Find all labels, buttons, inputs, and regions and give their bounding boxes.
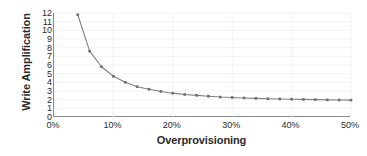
data-point bbox=[231, 96, 234, 99]
x-tick-label: 0% bbox=[46, 119, 59, 131]
plot-area bbox=[53, 13, 350, 117]
gridlines bbox=[54, 13, 351, 117]
data-point bbox=[136, 85, 139, 88]
y-tick-label: 2 bbox=[36, 95, 52, 104]
plot-svg bbox=[54, 13, 351, 117]
y-tick-label: 12 bbox=[36, 9, 52, 18]
data-point bbox=[207, 95, 210, 98]
data-point bbox=[350, 99, 353, 102]
x-tick-label: 30% bbox=[222, 119, 240, 131]
series-line-write-amplification bbox=[78, 15, 351, 100]
x-axis-title: Overprovisioning bbox=[53, 134, 350, 146]
data-point bbox=[195, 94, 198, 97]
data-point bbox=[326, 99, 329, 102]
y-axis-title: Write Amplification bbox=[16, 0, 36, 124]
series-markers bbox=[76, 13, 352, 101]
data-point bbox=[278, 98, 281, 101]
x-tick-label: 40% bbox=[282, 119, 300, 131]
data-point bbox=[148, 88, 151, 91]
y-tick-label: 5 bbox=[36, 69, 52, 78]
data-point bbox=[124, 81, 127, 84]
data-point bbox=[172, 92, 175, 95]
y-tick-label: 7 bbox=[36, 52, 52, 61]
data-point bbox=[76, 13, 79, 16]
y-tick-label: 8 bbox=[36, 43, 52, 52]
write-amplification-chart: Write Amplification 0123456789101112 0%1… bbox=[0, 0, 367, 156]
data-point bbox=[314, 98, 317, 101]
y-tick-label: 6 bbox=[36, 61, 52, 70]
data-point bbox=[290, 98, 293, 101]
data-point bbox=[302, 98, 305, 101]
data-point bbox=[100, 65, 103, 68]
data-point bbox=[219, 96, 222, 99]
x-tick-label: 10% bbox=[103, 119, 121, 131]
data-point bbox=[243, 97, 246, 100]
y-tick-label: 11 bbox=[36, 17, 52, 26]
data-point bbox=[267, 98, 270, 101]
y-tick-label: 9 bbox=[36, 35, 52, 44]
y-tick-label: 1 bbox=[36, 104, 52, 113]
data-point bbox=[255, 97, 258, 100]
x-tick-label: 20% bbox=[163, 119, 181, 131]
y-tick-label: 10 bbox=[36, 26, 52, 35]
data-point bbox=[160, 90, 163, 93]
data-point bbox=[183, 93, 186, 96]
x-axis-tick-labels: 0%10%20%30%40%50% bbox=[53, 119, 350, 133]
data-point bbox=[88, 50, 91, 53]
y-axis-tick-labels: 0123456789101112 bbox=[36, 8, 52, 120]
x-tick-label: 50% bbox=[341, 119, 359, 131]
y-tick-label: 3 bbox=[36, 87, 52, 96]
y-tick-label: 4 bbox=[36, 78, 52, 87]
data-point bbox=[338, 99, 341, 102]
data-point bbox=[112, 75, 115, 78]
